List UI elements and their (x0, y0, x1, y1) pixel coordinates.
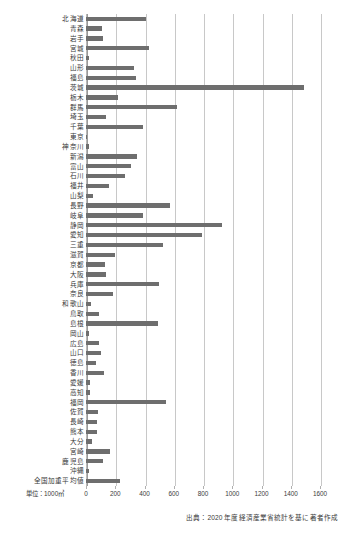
bar-滋賀 (86, 253, 115, 257)
bar-row: 新潟 (0, 152, 344, 162)
bar-row: 茨城 (0, 83, 344, 93)
x-tick-label-800: 800 (198, 489, 209, 498)
category-label-山梨: 山梨 (0, 191, 84, 201)
bar-row: 奈良 (0, 289, 344, 299)
bar-沖縄 (86, 469, 89, 473)
category-label-香川: 香川 (0, 368, 84, 378)
bar-row: 大分 (0, 437, 344, 447)
bar-茨城 (86, 85, 304, 89)
unit-label: 単位：1000㎥ (26, 489, 64, 498)
bar-北海道 (86, 17, 146, 21)
bar-rows: 北海道青森岩手宮城秋田山形福島茨城栃木群馬埼玉千葉東京神奈川新潟富山石川福井山梨… (0, 14, 344, 486)
bar-row: 栃木 (0, 93, 344, 103)
bar-row: 福島 (0, 73, 344, 83)
bar-山梨 (86, 194, 93, 198)
x-tick-label-1200: 1200 (254, 489, 268, 498)
category-label-千葉: 千葉 (0, 122, 84, 132)
category-label-秋田: 秋田 (0, 53, 84, 63)
bar-row: 全国加重平均値 (0, 476, 344, 486)
bar-row: 福岡 (0, 398, 344, 408)
bar-row: 岐阜 (0, 211, 344, 221)
category-label-滋賀: 滋賀 (0, 250, 84, 260)
category-label-宮城: 宮城 (0, 44, 84, 54)
category-label-奈良: 奈良 (0, 289, 84, 299)
x-tick-label-600: 600 (168, 489, 179, 498)
x-tick-label-0: 0 (84, 489, 88, 498)
bar-鳥取 (86, 312, 99, 316)
bar-広島 (86, 341, 99, 345)
category-label-福島: 福島 (0, 73, 84, 83)
bar-row: 愛媛 (0, 378, 344, 388)
category-label-愛知: 愛知 (0, 230, 84, 240)
category-label-兵庫: 兵庫 (0, 280, 84, 290)
category-label-埼玉: 埼玉 (0, 112, 84, 122)
bar-富山 (86, 164, 131, 168)
bar-row: 島根 (0, 319, 344, 329)
bar-大阪 (86, 272, 106, 276)
bar-福島 (86, 76, 136, 80)
x-tick-label-1000: 1000 (225, 489, 239, 498)
category-label-大分: 大分 (0, 437, 84, 447)
bar-新潟 (86, 154, 137, 158)
bar-兵庫 (86, 282, 159, 286)
bar-山形 (86, 66, 134, 70)
category-label-富山: 富山 (0, 162, 84, 172)
x-tick-label-1600: 1600 (313, 489, 327, 498)
bar-row: 山形 (0, 63, 344, 73)
bar-徳島 (86, 361, 96, 365)
category-label-京都: 京都 (0, 260, 84, 270)
category-label-茨城: 茨城 (0, 83, 84, 93)
bar-秋田 (86, 56, 89, 60)
category-label-群馬: 群馬 (0, 103, 84, 113)
bar-row: 岩手 (0, 34, 344, 44)
category-label-石川: 石川 (0, 171, 84, 181)
category-label-和歌山: 和歌山 (0, 299, 84, 309)
category-label-青森: 青森 (0, 24, 84, 34)
bar-福井 (86, 184, 109, 188)
category-label-鳥取: 鳥取 (0, 309, 84, 319)
bar-row: 千葉 (0, 122, 344, 132)
bar-row: 和歌山 (0, 299, 344, 309)
bar-row: 長野 (0, 201, 344, 211)
bar-高知 (86, 390, 90, 394)
bar-row: 滋賀 (0, 250, 344, 260)
bar-鹿児島 (86, 459, 103, 463)
bar-row: 鹿児島 (0, 457, 344, 467)
category-label-鹿児島: 鹿児島 (0, 457, 84, 467)
category-label-愛媛: 愛媛 (0, 378, 84, 388)
category-label-全国加重平均値: 全国加重平均値 (0, 476, 84, 486)
bar-chart: 北海道青森岩手宮城秋田山形福島茨城栃木群馬埼玉千葉東京神奈川新潟富山石川福井山梨… (0, 0, 344, 500)
bar-千葉 (86, 125, 143, 129)
x-tick-label-1400: 1400 (284, 489, 298, 498)
bar-row: 岡山 (0, 329, 344, 339)
bar-row: 沖縄 (0, 466, 344, 476)
bar-row: 石川 (0, 171, 344, 181)
category-label-新潟: 新潟 (0, 152, 84, 162)
bar-row: 秋田 (0, 53, 344, 63)
bar-宮崎 (86, 449, 110, 453)
category-label-山形: 山形 (0, 63, 84, 73)
x-tick-label-200: 200 (110, 489, 121, 498)
category-label-島根: 島根 (0, 319, 84, 329)
bar-福岡 (86, 400, 166, 404)
category-label-大阪: 大阪 (0, 270, 84, 280)
bar-奈良 (86, 292, 113, 296)
category-label-三重: 三重 (0, 240, 84, 250)
bar-宮城 (86, 46, 149, 50)
category-label-宮崎: 宮崎 (0, 447, 84, 457)
bar-熊本 (86, 430, 97, 434)
category-label-北海道: 北海道 (0, 14, 84, 24)
bar-row: 熊本 (0, 427, 344, 437)
category-label-佐賀: 佐賀 (0, 407, 84, 417)
category-label-岐阜: 岐阜 (0, 211, 84, 221)
bar-row: 宮城 (0, 44, 344, 54)
category-label-栃木: 栃木 (0, 93, 84, 103)
bar-row: 山梨 (0, 191, 344, 201)
bar-長野 (86, 203, 170, 207)
category-label-徳島: 徳島 (0, 358, 84, 368)
category-label-長崎: 長崎 (0, 417, 84, 427)
bar-山口 (86, 351, 101, 355)
category-label-山口: 山口 (0, 348, 84, 358)
bar-row: 兵庫 (0, 280, 344, 290)
category-label-熊本: 熊本 (0, 427, 84, 437)
